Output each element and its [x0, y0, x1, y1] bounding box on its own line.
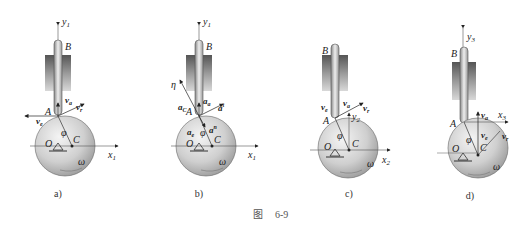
vector-ac-label: aC	[178, 102, 188, 113]
vector-ar-t-label: at	[218, 102, 225, 113]
angle-phi: φ	[337, 130, 343, 141]
vector-va-label: va	[343, 98, 350, 109]
point-o-label: O	[45, 138, 52, 149]
panel-b: y1 B x1 η A aC aa at ae an φ O C ω b)	[171, 16, 258, 200]
panel-c: B x2 y2 A ve va vr φ O C ω c)	[310, 44, 390, 200]
vector-va-label: va	[65, 95, 72, 106]
angle-phi: φ	[466, 134, 472, 145]
eta-label: η	[171, 79, 176, 90]
omega-label: ω	[78, 156, 85, 167]
vector-aa-label: aa	[203, 96, 211, 107]
figure-caption: 图 6-9	[253, 209, 288, 220]
vector-ve-label: ve	[321, 102, 328, 113]
point-a-label: A	[44, 106, 52, 117]
point-b-label: B	[206, 41, 212, 52]
omega-label: ω	[493, 161, 500, 172]
panel-label: c)	[345, 188, 353, 200]
axis-x-label: x2	[381, 154, 390, 167]
axis-x-label: x3	[497, 109, 506, 122]
point-a-label: A	[322, 115, 330, 126]
angle-phi: φ	[61, 127, 67, 138]
vector-vr-label: vr	[363, 103, 370, 114]
figure-6-9: y1 B x1 A va vr ve φ O C ω a) y1 B x1	[0, 0, 532, 230]
point-c-label: C	[352, 138, 359, 149]
point-c-label: C	[480, 142, 487, 153]
axis-x-label: x1	[247, 149, 256, 162]
omega-label: ω	[367, 158, 374, 169]
point-c-label: C	[73, 134, 80, 145]
panel-label: a)	[54, 188, 62, 200]
point-b-label: B	[322, 45, 328, 56]
vector-va-label: va	[481, 110, 488, 121]
point-b-label: B	[65, 41, 71, 52]
point-a-label: A	[449, 118, 457, 129]
follower-rod	[331, 44, 339, 118]
vector-ve-label: ve	[36, 116, 43, 127]
axis-x-label: x1	[107, 149, 116, 162]
panel-d: y3 B x3 A va ve vr φ O C ω d)	[437, 28, 509, 202]
vector-vr-label: vr	[502, 131, 509, 142]
point-o-label: O	[452, 143, 459, 154]
point-b-label: B	[451, 48, 457, 59]
point-o-label: O	[324, 141, 331, 152]
caption-number: 6-9	[275, 209, 288, 220]
vector-vr-label: vr	[76, 102, 83, 113]
point-o-label: O	[186, 138, 193, 149]
axis-y-label: y1	[202, 16, 211, 29]
omega-label: ω	[219, 156, 226, 167]
center-c	[348, 149, 351, 152]
center-c	[477, 154, 480, 157]
caption-prefix: 图	[253, 209, 263, 220]
point-c-label: C	[214, 134, 221, 145]
panel-a: y1 B x1 A va vr ve φ O C ω a)	[25, 16, 118, 200]
axis-y-label: y3	[466, 31, 475, 44]
follower-rod	[460, 47, 468, 123]
axis-y-label: y1	[61, 16, 70, 29]
panel-label: b)	[195, 188, 203, 200]
panel-label: d)	[466, 190, 474, 202]
angle-phi: φ	[200, 127, 206, 138]
